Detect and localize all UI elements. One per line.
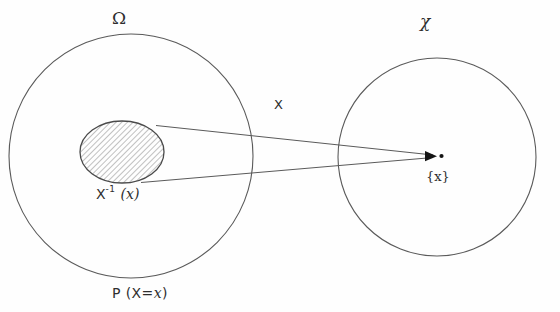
preimage-exponent: -1 xyxy=(106,184,116,194)
probability-prefix: P xyxy=(112,285,121,301)
probability-close: ) xyxy=(162,285,168,301)
mapping-line-upper xyxy=(156,126,433,156)
codomain-set-label: χ xyxy=(420,13,430,30)
probability-label: P (X=x) xyxy=(112,286,168,300)
domain-set-label: Ω xyxy=(112,10,126,27)
probability-open: (X= xyxy=(126,285,154,301)
preimage-region xyxy=(80,121,164,183)
mapping-line-lower xyxy=(141,158,433,183)
image-point-dot xyxy=(439,154,443,158)
preimage-argument: (x) xyxy=(121,186,140,202)
diagram-vector-layer xyxy=(0,0,560,312)
random-variable-label: X xyxy=(274,98,283,111)
diagram-canvas: Ω χ X {x} X-1(x) P (X=x) xyxy=(0,0,560,312)
preimage-label: X-1(x) xyxy=(96,186,139,201)
codomain-set-circle xyxy=(338,58,536,256)
singleton-image-label: {x} xyxy=(426,170,450,183)
probability-value: x xyxy=(154,285,162,301)
mapping-arrowhead-icon xyxy=(425,151,437,161)
preimage-base: X xyxy=(96,186,106,202)
